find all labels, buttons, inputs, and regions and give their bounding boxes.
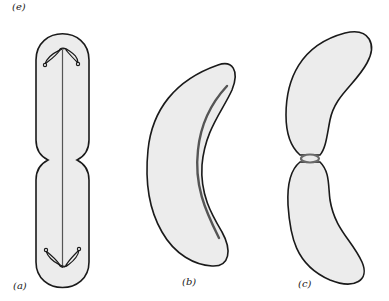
panel-label-c: (c) (298, 278, 311, 289)
cell-division-diagram (0, 0, 389, 301)
panel-label-a: (a) (13, 280, 27, 291)
constriction-ring (301, 155, 319, 163)
cell-b-outline (147, 64, 235, 266)
panel-label-b: (b) (182, 276, 196, 287)
cell-c (286, 32, 371, 284)
cell-c-upper-outline (286, 32, 371, 155)
cell-c-lower-outline (288, 162, 364, 284)
cell-b (147, 64, 235, 266)
cell-a (36, 34, 89, 288)
